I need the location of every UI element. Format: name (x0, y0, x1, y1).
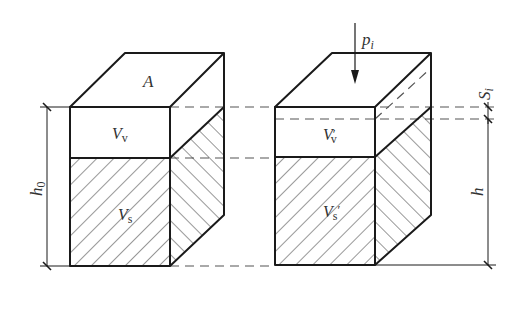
h-label: h (468, 188, 487, 197)
left-soil-block: A Vv Vs h0 (27, 53, 224, 270)
left-solid-side-hatch (170, 107, 224, 266)
soil-compression-diagram: A Vv Vs h0 pi V′v Vs′ (0, 0, 518, 312)
h0-label: h0 (27, 182, 48, 197)
right-soil-block: pi V′v Vs′ Si h (275, 23, 496, 269)
settlement-label: Si (475, 88, 496, 100)
left-top-area-label: A (142, 72, 154, 91)
left-void-label: Vv (112, 125, 128, 145)
right-void-label: V′v (323, 126, 337, 146)
load-label: pi (361, 30, 374, 52)
